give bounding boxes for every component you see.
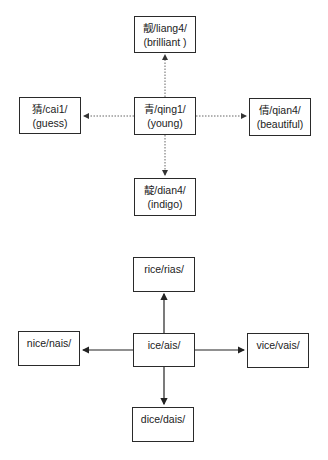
node-center-word: 青/qing1/ [135,102,195,116]
node-bottom: dice/dais/ [132,407,194,442]
node-left-meaning: (guess) [20,116,80,130]
node-top: 靓/liang4/ (brilliant ) [134,16,196,53]
node-right: vice/vais/ [247,333,309,368]
node-right-word: 倩/qian4/ [250,103,310,117]
node-left-word: nice/nais/ [19,336,79,350]
node-bottom: 靛/dian4/ (indigo) [134,178,196,216]
node-right-meaning: (beautiful) [250,117,310,131]
rhyme-diagram: rice/rias/ ice/ais/ nice/nais/ vice/vais… [0,230,328,460]
node-top-word: 靓/liang4/ [135,21,195,35]
node-top-word: rice/rias/ [134,262,194,276]
node-top: rice/rias/ [133,257,195,292]
node-bottom-meaning: (indigo) [135,197,195,211]
node-center-meaning: (young) [135,116,195,130]
node-left: 猜/cai1/ (guess) [19,97,81,134]
node-bottom-word: 靛/dian4/ [135,183,195,197]
node-top-meaning: (brilliant ) [135,35,195,49]
node-center: ice/ais/ [133,333,195,367]
node-right: 倩/qian4/ (beautiful) [249,98,311,136]
character-diagram: 靓/liang4/ (brilliant ) 青/qing1/ (young) … [0,0,328,230]
node-center: 青/qing1/ (young) [134,97,196,135]
node-center-word: ice/ais/ [134,338,194,352]
node-left-word: 猜/cai1/ [20,102,80,116]
node-bottom-word: dice/dais/ [133,412,193,426]
node-right-word: vice/vais/ [248,338,308,352]
node-left: nice/nais/ [18,331,80,366]
